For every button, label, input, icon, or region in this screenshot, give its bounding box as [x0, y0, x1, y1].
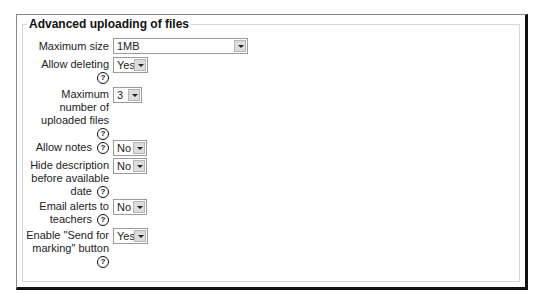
max-uploaded-files-label: Maximum number of uploaded files ? [0, 88, 109, 140]
hide-description-select[interactable]: No [113, 158, 147, 174]
chevron-down-icon[interactable] [128, 89, 140, 101]
allow-notes-select[interactable]: No [113, 140, 147, 156]
send-for-marking-label: Enable "Send for marking" button ? [0, 229, 109, 268]
help-icon[interactable]: ? [97, 214, 109, 226]
email-alerts-label: Email alerts to teachers ? [0, 200, 109, 226]
allow-deleting-label-text: Allow deleting [41, 58, 109, 70]
help-icon[interactable]: ? [97, 72, 109, 84]
label-line: number of [59, 101, 109, 113]
advanced-uploading-fieldset: Advanced uploading of files Maximum size… [22, 24, 520, 282]
panel-frame: Advanced uploading of files Maximum size… [16, 14, 528, 290]
allow-notes-label: Allow notes ? [0, 141, 109, 154]
label-line: teachers [50, 213, 92, 225]
help-icon[interactable]: ? [97, 142, 109, 154]
help-icon[interactable]: ? [97, 128, 109, 140]
fieldset-legend: Advanced uploading of files [27, 17, 191, 31]
maximum-size-select[interactable]: 1MB [113, 38, 248, 54]
send-for-marking-select[interactable]: Yes [113, 228, 148, 244]
maximum-size-label: Maximum size [0, 40, 109, 53]
help-icon[interactable]: ? [97, 186, 109, 198]
hide-description-label: Hide description before available date ? [0, 159, 109, 198]
label-line: uploaded files [41, 114, 109, 126]
allow-deleting-select[interactable]: Yes [113, 57, 148, 73]
hide-description-value: No [117, 159, 131, 173]
label-line: Email alerts to [39, 200, 109, 212]
email-alerts-select[interactable]: No [113, 199, 147, 215]
allow-notes-label-text: Allow notes [36, 141, 92, 153]
label-line: Maximum [61, 88, 109, 100]
email-alerts-value: No [117, 200, 131, 214]
allow-notes-value: No [117, 141, 131, 155]
chevron-down-icon[interactable] [133, 160, 145, 172]
chevron-down-icon[interactable] [134, 59, 146, 71]
chevron-down-icon[interactable] [134, 230, 146, 242]
label-line: Enable "Send for [26, 229, 109, 241]
label-line: date [71, 185, 92, 197]
label-line: Hide description [30, 159, 109, 171]
label-line: marking" button [32, 242, 109, 254]
label-line: before available [31, 172, 109, 184]
max-uploaded-files-select[interactable]: 3 [113, 87, 142, 103]
allow-deleting-value: Yes [117, 58, 135, 72]
maximum-size-value: 1MB [117, 39, 140, 53]
max-uploaded-files-value: 3 [117, 88, 123, 102]
send-for-marking-value: Yes [117, 229, 135, 243]
chevron-down-icon[interactable] [234, 40, 246, 52]
allow-deleting-label: Allow deleting ? [0, 58, 109, 84]
chevron-down-icon[interactable] [133, 201, 145, 213]
help-icon[interactable]: ? [97, 256, 109, 268]
chevron-down-icon[interactable] [133, 142, 145, 154]
maximum-size-label-text: Maximum size [39, 40, 109, 52]
